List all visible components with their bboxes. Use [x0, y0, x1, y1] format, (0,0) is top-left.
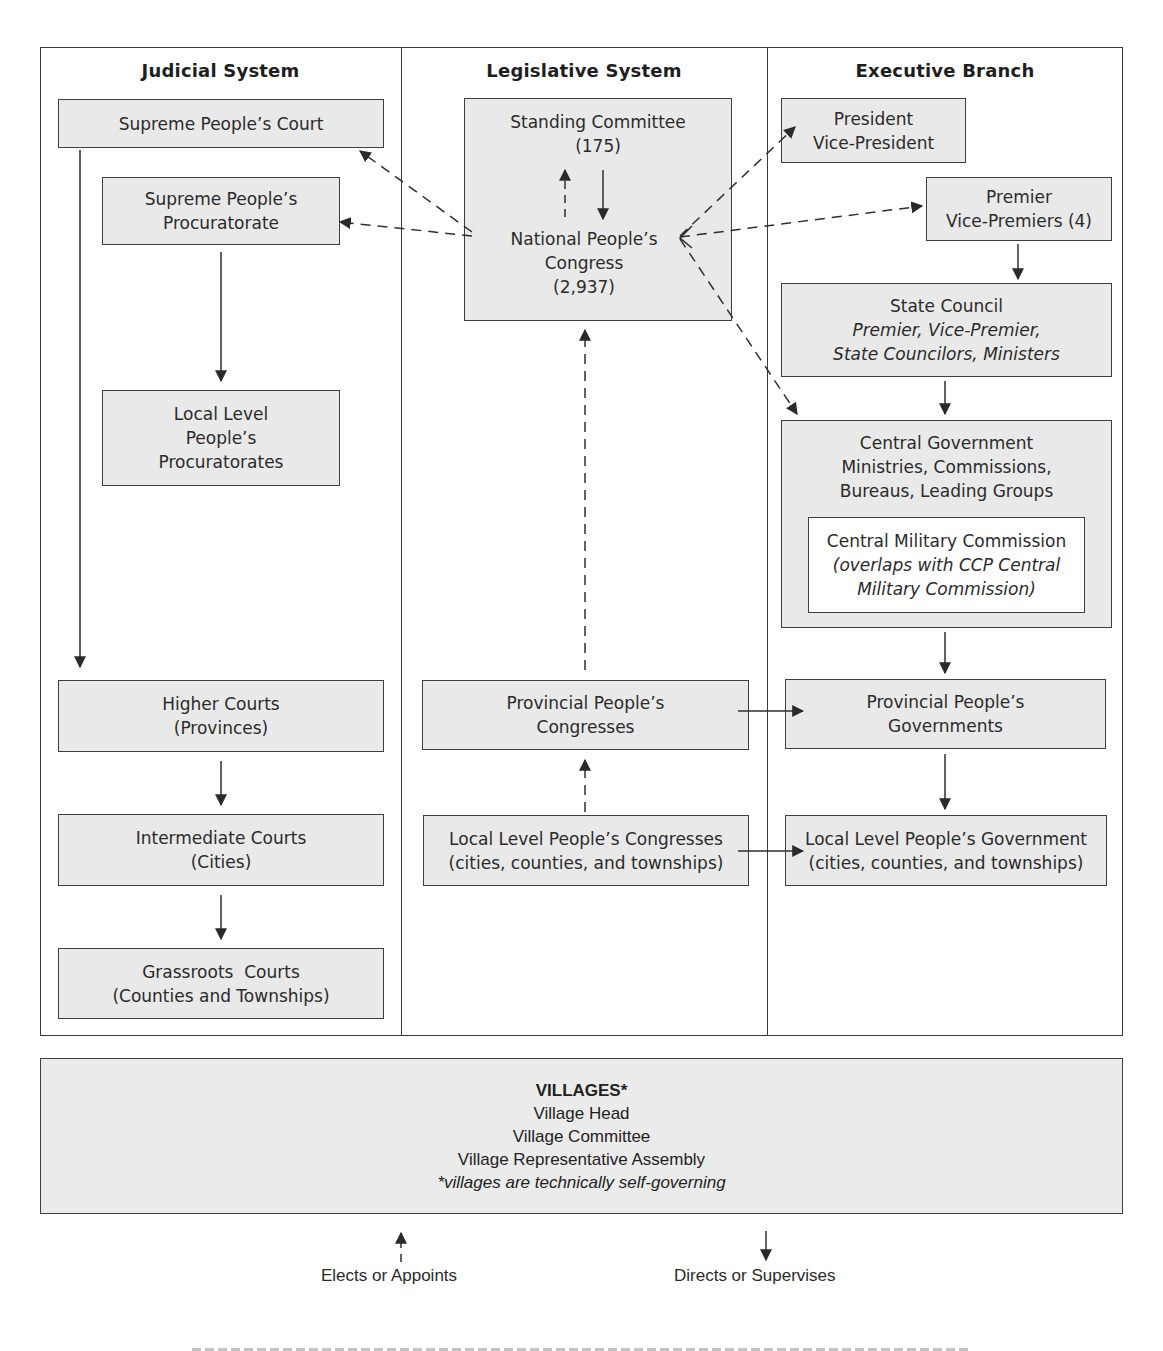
column-title-legislative: Legislative System [401, 60, 767, 81]
box-label: (175) [464, 134, 732, 158]
box-label: Congress [464, 251, 704, 275]
box-label: People’s [186, 426, 257, 450]
box-president: President Vice-President [781, 98, 966, 163]
box-intermediate-courts: Intermediate Courts (Cities) [58, 814, 384, 886]
box-label: (cities, counties, and townships) [809, 851, 1084, 875]
box-label: Procuratorate [163, 211, 279, 235]
column-title-executive: Executive Branch [767, 60, 1123, 81]
box-label: Central Government [860, 431, 1033, 455]
box-local-peoples-government: Local Level People’s Government (cities,… [785, 815, 1107, 886]
label-national-peoples-congress: National People’s Congress (2,937) [464, 227, 704, 299]
box-label: Bureaus, Leading Groups [840, 479, 1054, 503]
box-label: Vice-Premiers (4) [946, 209, 1092, 233]
box-label: President [834, 107, 913, 131]
villages-footnote: *villages are technically self-governing [437, 1171, 725, 1194]
villages-title: VILLAGES* [536, 1079, 628, 1102]
box-label: Congresses [537, 715, 635, 739]
box-label: Central Military Commission [827, 529, 1066, 553]
box-label: Local Level [174, 402, 268, 426]
box-local-peoples-congresses: Local Level People’s Congresses (cities,… [423, 815, 749, 886]
figure-caption-truncated [0, 1341, 1163, 1351]
box-label: State Council [890, 294, 1003, 318]
box-supreme-peoples-procuratorate: Supreme People’s Procuratorate [102, 177, 340, 245]
box-label: (2,937) [464, 275, 704, 299]
villages-line: Village Committee [513, 1125, 651, 1148]
box-label: Premier [986, 185, 1052, 209]
box-label: Provincial People’s [507, 691, 665, 715]
column-divider-legislative-executive [767, 47, 768, 1036]
villages-line: Village Head [533, 1102, 629, 1125]
box-provincial-peoples-governments: Provincial People’s Governments [785, 679, 1106, 749]
box-grassroots-courts: Grassroots Courts (Counties and Township… [58, 948, 384, 1019]
legend-solid-label: Directs or Supervises [674, 1266, 836, 1286]
box-sublabel: Premier, Vice-Premier, [852, 318, 1040, 342]
box-label: Vice-President [813, 131, 934, 155]
box-label: Grassroots Courts [142, 960, 300, 984]
box-label: Supreme People’s Court [119, 112, 324, 136]
box-higher-courts: Higher Courts (Provinces) [58, 680, 384, 752]
box-local-procuratorates: Local Level People’s Procuratorates [102, 390, 340, 486]
box-label: Higher Courts [162, 692, 279, 716]
box-label: Local Level People’s Congresses [449, 827, 723, 851]
box-label: Local Level People’s Government [805, 827, 1087, 851]
box-label: Ministries, Commissions, [841, 455, 1051, 479]
box-label: Provincial People’s [867, 690, 1025, 714]
box-sublabel: State Councilors, Ministers [833, 342, 1060, 366]
box-label: (Provinces) [174, 716, 268, 740]
box-state-council: State Council Premier, Vice-Premier, Sta… [781, 283, 1112, 377]
column-title-judicial: Judicial System [40, 60, 401, 81]
box-provincial-peoples-congresses: Provincial People’s Congresses [422, 680, 749, 750]
box-label: National People’s [464, 227, 704, 251]
box-premier: Premier Vice-Premiers (4) [926, 177, 1112, 241]
label-standing-committee: Standing Committee (175) [464, 110, 732, 158]
column-divider-judicial-legislative [401, 47, 402, 1036]
box-sublabel: (overlaps with CCP Central [833, 553, 1061, 577]
box-label: (cities, counties, and townships) [449, 851, 724, 875]
villages-line: Village Representative Assembly [458, 1148, 705, 1171]
box-sublabel: Military Commission) [857, 577, 1036, 601]
box-label: (Counties and Townships) [112, 984, 329, 1008]
box-label: Procuratorates [159, 450, 284, 474]
box-label: Standing Committee [464, 110, 732, 134]
box-label: (Cities) [191, 850, 252, 874]
box-label: Supreme People’s [145, 187, 298, 211]
legend-dashed-label: Elects or Appoints [321, 1266, 457, 1286]
box-central-military-commission: Central Military Commission (overlaps wi… [808, 517, 1085, 613]
box-villages: VILLAGES* Village Head Village Committee… [40, 1058, 1123, 1214]
box-supreme-peoples-court: Supreme People’s Court [58, 99, 384, 148]
box-label: Intermediate Courts [136, 826, 307, 850]
box-label: Governments [888, 714, 1003, 738]
